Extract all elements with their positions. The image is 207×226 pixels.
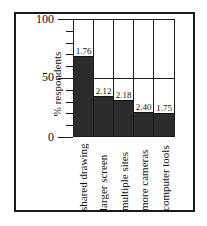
bar bbox=[94, 96, 113, 136]
bar bbox=[114, 100, 133, 136]
y-tick bbox=[66, 43, 73, 44]
plot-area: 1.762.122.182.401.75 bbox=[73, 19, 175, 137]
bar-value-label: 2.40 bbox=[134, 102, 153, 112]
y-label-100: 100 bbox=[30, 13, 54, 25]
y-label-0: 0 bbox=[30, 131, 54, 143]
bar-value-label: 2.12 bbox=[94, 86, 113, 96]
bar-value-label: 1.76 bbox=[74, 46, 93, 56]
y-tick bbox=[66, 90, 73, 91]
y-tick bbox=[66, 54, 73, 55]
y-axis-title: % respondents bbox=[51, 39, 63, 129]
bar-column: 1.76 bbox=[74, 20, 94, 136]
y-tick bbox=[66, 31, 73, 32]
y-tick bbox=[66, 66, 73, 67]
bar-column: 2.12 bbox=[94, 20, 114, 136]
y-tick bbox=[58, 78, 73, 79]
y-tick bbox=[66, 125, 73, 126]
x-category-label: more cameras bbox=[138, 141, 150, 211]
y-tick bbox=[58, 137, 73, 138]
bar-value-label: 2.18 bbox=[114, 90, 133, 100]
bar bbox=[134, 112, 153, 136]
bar bbox=[154, 113, 174, 136]
bar-value-label: 1.75 bbox=[154, 103, 174, 113]
y-tick bbox=[58, 19, 73, 20]
bar-column: 2.40 bbox=[134, 20, 154, 136]
y-label-50: 50 bbox=[30, 71, 54, 83]
x-category-label: shared drawing bbox=[77, 141, 89, 211]
bar bbox=[74, 56, 93, 136]
y-tick bbox=[66, 102, 73, 103]
bar-column: 1.75 bbox=[154, 20, 174, 136]
x-category-label: computer tools bbox=[159, 141, 171, 211]
x-category-label: multiple sites bbox=[118, 141, 130, 211]
x-category-label: larger screen bbox=[97, 141, 109, 211]
y-tick bbox=[66, 113, 73, 114]
bar-column: 2.18 bbox=[114, 20, 134, 136]
